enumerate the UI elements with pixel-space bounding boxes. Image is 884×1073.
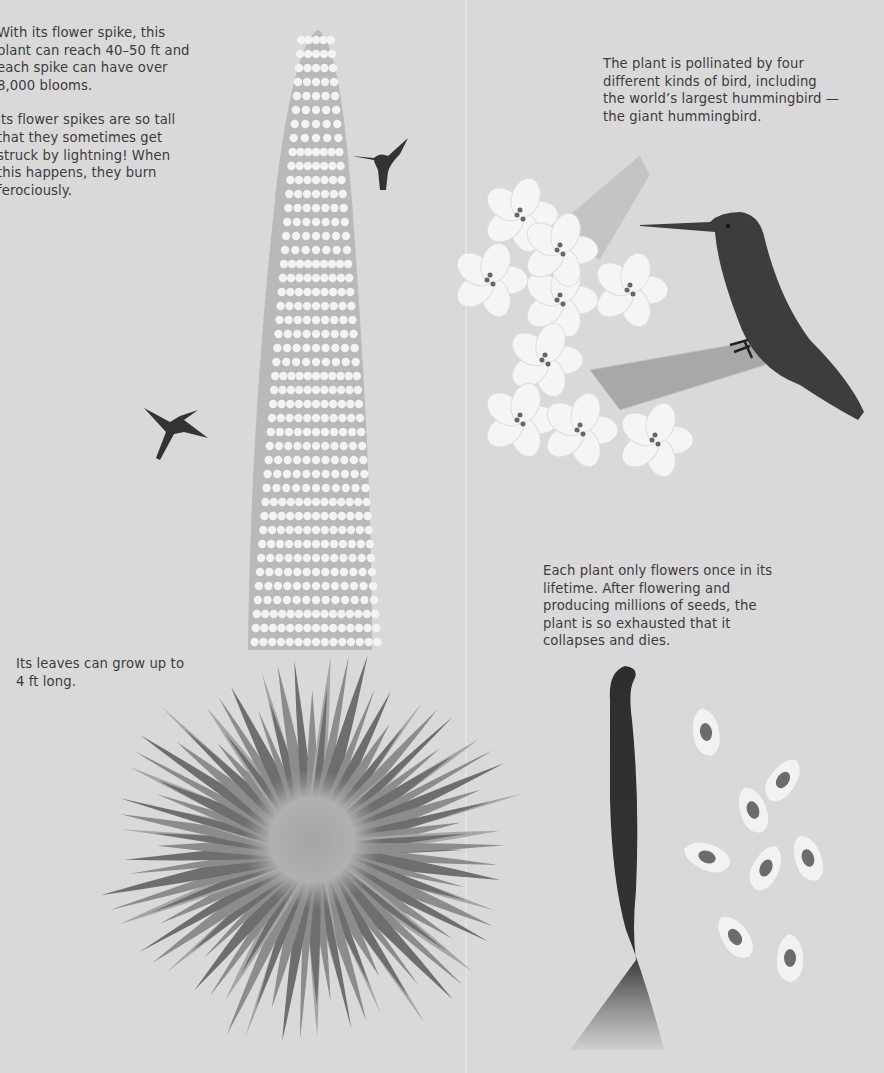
bloom <box>336 162 344 170</box>
bloom <box>303 176 311 184</box>
bloom <box>312 540 320 548</box>
bloom <box>354 386 362 394</box>
bloom <box>335 148 343 156</box>
bloom <box>339 428 347 436</box>
bloom <box>304 36 312 44</box>
bloom <box>288 260 296 268</box>
bloom <box>331 330 339 338</box>
bloom <box>330 78 338 86</box>
bloom <box>321 344 329 352</box>
bloom <box>346 624 354 632</box>
bloom <box>312 596 320 604</box>
bloom <box>258 540 266 548</box>
bloom <box>295 400 303 408</box>
bloom <box>346 400 354 408</box>
bloom <box>302 582 310 590</box>
bloom <box>312 288 320 296</box>
bloom <box>267 428 275 436</box>
bloom <box>284 330 292 338</box>
bloom <box>274 456 282 464</box>
bloom <box>278 288 286 296</box>
bloom <box>370 596 378 604</box>
bloom <box>312 36 320 44</box>
bloom <box>275 554 283 562</box>
bloom <box>312 484 320 492</box>
bloom <box>312 372 320 380</box>
bloom <box>358 442 366 450</box>
bloom <box>320 176 328 184</box>
seed-group <box>680 706 829 982</box>
bloom <box>279 274 287 282</box>
bloom <box>284 568 292 576</box>
bloom <box>320 162 328 170</box>
bloom <box>330 568 338 576</box>
bloom <box>312 64 320 72</box>
bloom <box>327 36 335 44</box>
bloom <box>339 316 347 324</box>
bloom <box>312 344 320 352</box>
bloom <box>294 316 302 324</box>
bloom <box>303 204 311 212</box>
bloom <box>268 638 276 646</box>
bloom <box>342 358 350 366</box>
bloom <box>338 526 346 534</box>
bloom <box>292 484 300 492</box>
bloom <box>295 498 303 506</box>
bloom <box>331 470 339 478</box>
bloom <box>296 148 304 156</box>
bloom <box>359 582 367 590</box>
bloom <box>332 358 340 366</box>
bloom <box>282 358 290 366</box>
seed-icon <box>711 910 760 964</box>
bloom <box>293 568 301 576</box>
bloom <box>340 456 348 464</box>
bloom <box>321 190 329 198</box>
bloom <box>257 554 265 562</box>
bloom <box>341 218 349 226</box>
bloom <box>296 260 304 268</box>
bloom <box>341 470 349 478</box>
bloom <box>275 442 283 450</box>
bloom <box>278 386 286 394</box>
bloom <box>322 232 330 240</box>
bloom <box>312 232 320 240</box>
bloom <box>312 302 320 310</box>
bloom <box>337 498 345 506</box>
bloom <box>253 610 261 618</box>
bloom <box>302 218 310 226</box>
bloom <box>330 540 338 548</box>
bloom <box>330 190 338 198</box>
bloom <box>276 540 284 548</box>
bloom <box>329 176 337 184</box>
bloom <box>303 498 311 506</box>
bloom <box>302 106 310 114</box>
bloom <box>331 92 339 100</box>
bloom <box>286 400 294 408</box>
bloom <box>293 204 301 212</box>
bloom <box>283 582 291 590</box>
bloom <box>346 288 354 296</box>
bloom <box>304 162 312 170</box>
bloom <box>320 512 328 520</box>
bloom <box>302 92 310 100</box>
bloom <box>275 316 283 324</box>
bloom <box>319 36 327 44</box>
bloom <box>303 78 311 86</box>
bloom <box>330 316 338 324</box>
bloom <box>347 526 355 534</box>
bloom <box>286 512 294 520</box>
bloom <box>302 456 310 464</box>
bloom <box>322 106 330 114</box>
bloom <box>360 470 368 478</box>
bloom <box>295 624 303 632</box>
bloom <box>270 498 278 506</box>
bloom <box>295 386 303 394</box>
bloom <box>312 526 320 534</box>
bloom <box>363 610 371 618</box>
bloom <box>312 498 320 506</box>
bloom <box>276 302 284 310</box>
bloom <box>355 512 363 520</box>
bloom <box>320 400 328 408</box>
bloom <box>312 176 320 184</box>
bloom <box>303 386 311 394</box>
